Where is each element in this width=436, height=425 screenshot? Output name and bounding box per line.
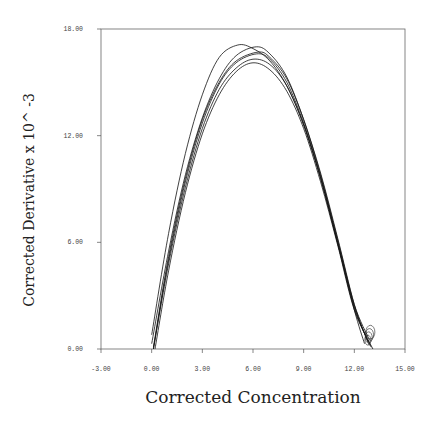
x-axis: -3.000.003.006.009.0012.0015.00 bbox=[91, 349, 415, 373]
y-tick-label: 18.00 bbox=[63, 26, 83, 33]
data-curve bbox=[152, 47, 368, 344]
plot-frame bbox=[101, 29, 405, 349]
y-axis-title: Corrected Derivative x 10^ -3 bbox=[21, 93, 37, 307]
x-axis-title: Corrected Concentration bbox=[145, 387, 361, 407]
x-tick-label: 3.00 bbox=[195, 366, 211, 373]
data-curve bbox=[153, 54, 369, 349]
x-tick-label: 9.00 bbox=[296, 366, 312, 373]
x-tick-label: 0.00 bbox=[144, 366, 160, 373]
y-tick-label: 0.00 bbox=[67, 346, 83, 353]
y-tick-label: 12.00 bbox=[63, 133, 83, 140]
data-curve bbox=[153, 59, 371, 349]
data-curves bbox=[152, 45, 375, 349]
y-tick-label: 6.00 bbox=[67, 239, 83, 246]
data-curve bbox=[155, 63, 373, 349]
x-tick-label: 12.00 bbox=[345, 366, 365, 373]
data-curve bbox=[153, 52, 369, 347]
chart: -3.000.003.006.009.0012.0015.00 0.006.00… bbox=[0, 0, 436, 425]
y-axis: 0.006.0012.0018.00 bbox=[63, 26, 101, 353]
x-tick-label: 15.00 bbox=[395, 366, 415, 373]
x-tick-label: -3.00 bbox=[91, 366, 111, 373]
x-tick-label: 6.00 bbox=[245, 366, 261, 373]
